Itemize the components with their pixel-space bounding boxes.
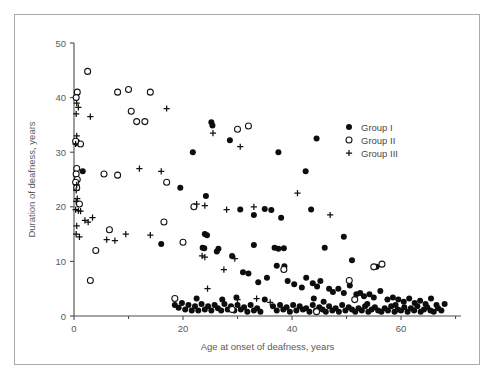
data-point <box>73 95 79 101</box>
data-point <box>310 302 316 308</box>
data-point <box>87 114 93 120</box>
data-point <box>85 68 91 74</box>
data-point <box>208 308 214 314</box>
data-point <box>123 231 129 237</box>
data-point <box>202 203 208 209</box>
data-point <box>335 286 341 292</box>
data-point <box>262 297 268 303</box>
data-point <box>264 275 270 281</box>
series-group-iii <box>73 100 334 305</box>
data-point <box>89 215 95 221</box>
data-point <box>251 212 257 218</box>
data-point <box>314 284 320 290</box>
filled-circle-icon <box>346 124 352 130</box>
data-point <box>314 309 320 315</box>
data-point <box>311 296 317 302</box>
data-point <box>244 309 250 315</box>
data-point <box>438 308 444 314</box>
data-point <box>210 130 216 136</box>
data-point <box>406 296 412 302</box>
y-tick-label: 20 <box>55 201 66 212</box>
x-tick-label: 0 <box>71 323 76 334</box>
data-point <box>76 201 82 207</box>
data-point <box>401 299 407 305</box>
x-tick-label: 40 <box>287 323 298 334</box>
data-point <box>371 264 377 270</box>
data-point <box>136 165 142 171</box>
data-point <box>303 275 309 281</box>
data-point <box>251 242 257 248</box>
data-point <box>201 245 207 251</box>
data-point <box>294 190 300 196</box>
data-point <box>341 290 347 296</box>
data-point <box>229 253 235 259</box>
data-point <box>87 278 93 284</box>
data-point <box>390 294 396 300</box>
data-point <box>253 295 259 301</box>
data-point <box>142 119 148 125</box>
data-point <box>281 267 287 273</box>
y-tick-label: 10 <box>55 256 66 267</box>
data-point <box>147 89 153 95</box>
legend-label: Group III <box>361 148 398 159</box>
data-point <box>349 257 355 263</box>
data-point <box>147 232 153 238</box>
data-point <box>126 86 132 92</box>
data-point <box>245 123 251 129</box>
data-point <box>299 285 305 291</box>
data-point <box>371 294 377 300</box>
data-point <box>204 286 210 292</box>
data-point <box>191 204 197 210</box>
data-point <box>176 305 182 311</box>
data-point <box>352 297 358 303</box>
data-point <box>346 278 352 284</box>
data-point <box>314 136 320 142</box>
data-point <box>323 309 329 315</box>
data-point <box>115 172 121 178</box>
data-point <box>185 302 191 308</box>
figure-frame: 010203040500204060 Age at onset of deafn… <box>14 14 480 365</box>
data-point <box>177 185 183 191</box>
data-point <box>306 309 312 315</box>
data-point <box>321 299 327 305</box>
data-point <box>218 308 224 314</box>
legend: Group IGroup IIGroup III <box>346 122 398 159</box>
data-point <box>128 108 134 114</box>
data-point <box>330 289 336 295</box>
data-point <box>275 149 281 155</box>
data-point <box>251 204 257 210</box>
data-point <box>417 298 423 304</box>
data-point <box>287 309 293 315</box>
data-point <box>364 301 370 307</box>
x-tick-label: 60 <box>396 323 407 334</box>
data-point <box>237 207 243 213</box>
data-point <box>240 269 246 275</box>
data-point <box>290 302 296 308</box>
y-tick-label: 50 <box>55 38 66 49</box>
data-point <box>199 301 205 307</box>
data-point <box>274 308 280 314</box>
data-point <box>257 309 263 315</box>
data-point <box>227 137 233 143</box>
data-point <box>134 119 140 125</box>
data-point <box>275 246 281 252</box>
data-point <box>361 293 367 299</box>
data-point <box>235 126 241 132</box>
data-points-group <box>73 68 448 314</box>
data-point <box>112 238 118 244</box>
data-point <box>161 219 167 225</box>
data-point <box>229 306 235 312</box>
data-point <box>219 297 225 303</box>
data-point <box>158 168 164 174</box>
x-axis-title: Age at onset of deafness, years <box>201 341 335 352</box>
legend-label: Group II <box>361 135 395 146</box>
data-point <box>93 247 99 253</box>
data-point <box>379 261 385 267</box>
x-tick-label: 20 <box>178 323 189 334</box>
data-point <box>248 302 254 308</box>
data-point <box>179 300 185 306</box>
data-point <box>194 296 200 302</box>
data-point <box>74 223 80 229</box>
data-point <box>428 296 434 302</box>
data-point <box>442 301 448 307</box>
